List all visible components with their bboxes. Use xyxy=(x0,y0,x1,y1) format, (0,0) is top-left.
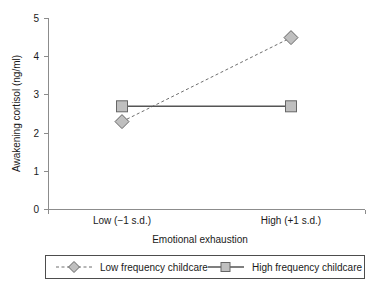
x-axis: Low (−1 s.d.) High (+1 s.d.) Emotional e… xyxy=(49,210,366,246)
y-tick-label-3: 3 xyxy=(33,89,39,100)
y-axis-title: Awakening cortisol (ng/ml) xyxy=(11,55,22,172)
square-marker xyxy=(117,101,128,112)
y-tick-label-4: 4 xyxy=(33,51,39,62)
square-marker xyxy=(221,263,230,272)
x-tick-label-low: Low (−1 s.d.) xyxy=(93,215,151,226)
y-tick-label-2: 2 xyxy=(33,128,39,139)
interaction-plot: 5 4 3 2 1 0 Awakening cortisol (ng/ml) L… xyxy=(0,0,379,290)
legend-label-high-frequency-childcare: High frequency childcare xyxy=(252,262,362,273)
diamond-marker xyxy=(115,115,129,129)
x-tick-label-high: High (+1 s.d.) xyxy=(261,215,321,226)
x-axis-title: Emotional exhaustion xyxy=(152,234,248,245)
chart-legend: Low frequency childcare High frequency c… xyxy=(46,256,365,279)
y-tick-label-5: 5 xyxy=(33,13,39,24)
legend-label-low-frequency-childcare: Low frequency childcare xyxy=(100,262,208,273)
square-marker xyxy=(286,101,297,112)
y-axis: 5 4 3 2 1 0 Awakening cortisol (ng/ml) xyxy=(11,13,49,215)
chart-figure: 5 4 3 2 1 0 Awakening cortisol (ng/ml) L… xyxy=(0,0,379,290)
series-low-frequency-childcare xyxy=(115,31,298,129)
diamond-marker xyxy=(284,31,298,45)
y-tick-label-1: 1 xyxy=(33,166,39,177)
series-high-frequency-childcare xyxy=(117,101,297,112)
y-tick-label-0: 0 xyxy=(33,204,39,215)
series-low-frequency-line xyxy=(122,38,291,122)
